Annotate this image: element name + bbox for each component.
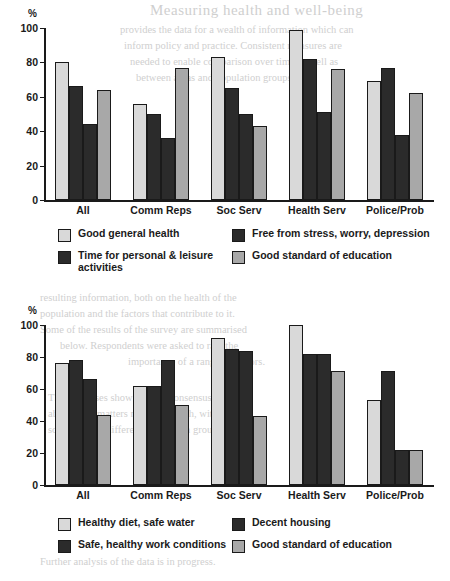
y-tick-mark	[40, 325, 44, 326]
bar	[381, 68, 395, 200]
bar	[161, 360, 175, 485]
bar	[331, 371, 345, 485]
bar	[211, 338, 225, 485]
y-tick-mark	[40, 200, 44, 201]
y-tick-label: 60	[14, 383, 38, 395]
legend-label: Healthy diet, safe water	[78, 517, 195, 529]
legend-label: Good standard of education	[252, 250, 392, 262]
legend-swatch-mid	[232, 251, 245, 264]
x-axis-label: Health Serv	[288, 489, 346, 501]
x-axis-label: Soc Serv	[217, 489, 262, 501]
y-tick-mark	[40, 28, 44, 29]
y-tick-mark	[40, 485, 44, 486]
y-tick-label: 0	[14, 479, 38, 491]
y-tick-mark	[40, 453, 44, 454]
bar	[55, 62, 69, 200]
legend-swatch-light	[58, 518, 71, 531]
legend-swatch-light	[58, 229, 71, 242]
bar	[395, 135, 409, 200]
x-axis-label: Police/Prob	[366, 204, 424, 216]
y-tick-mark	[40, 166, 44, 167]
bar	[303, 354, 317, 485]
bar	[395, 450, 409, 485]
bar	[239, 114, 253, 200]
bar	[147, 114, 161, 200]
y-axis	[44, 325, 46, 486]
bar	[367, 81, 381, 200]
x-axis-label: Comm Reps	[130, 489, 191, 501]
y-tick-label: 60	[14, 91, 38, 103]
legend-label: Time for personal & leisure activities	[78, 250, 213, 273]
bar	[175, 68, 189, 200]
legend-swatch-dark	[58, 540, 71, 553]
x-axis	[44, 200, 434, 202]
chart-top-y-axis-label: %	[28, 8, 37, 19]
chart-top: % 020406080100 Good general healthFree f…	[0, 0, 450, 291]
x-axis-label: All	[76, 489, 89, 501]
y-tick-mark	[40, 389, 44, 390]
legend-item: Good general health	[58, 228, 180, 242]
legend-item: Good standard of education	[232, 250, 392, 264]
y-tick-label: 40	[14, 415, 38, 427]
bar	[239, 351, 253, 485]
bar	[133, 104, 147, 200]
bar	[147, 386, 161, 485]
legend-item: Decent housing	[232, 517, 331, 531]
bar	[289, 325, 303, 485]
bar	[69, 86, 83, 200]
legend-item: Time for personal & leisure activities	[58, 250, 213, 273]
bar	[97, 90, 111, 200]
chart-bottom-y-axis-label: %	[28, 305, 37, 316]
y-axis	[44, 28, 46, 201]
bar	[331, 69, 345, 200]
chart-bottom-legend: Healthy diet, safe waterDecent housingSa…	[0, 517, 450, 567]
x-axis-label: Comm Reps	[130, 204, 191, 216]
y-tick-label: 0	[14, 194, 38, 206]
bar	[289, 30, 303, 200]
bar	[83, 379, 97, 485]
y-tick-mark	[40, 97, 44, 98]
y-tick-label: 100	[14, 22, 38, 34]
bar	[55, 363, 69, 485]
bar	[161, 138, 175, 200]
chart-top-legend: Good general healthFree from stress, wor…	[0, 228, 450, 286]
y-tick-label: 80	[14, 351, 38, 363]
legend-label: Safe, healthy work conditions	[78, 539, 226, 551]
legend-label: Good standard of education	[252, 539, 392, 551]
legend-item: Free from stress, worry, depression	[232, 228, 430, 242]
chart-bottom: % 020406080100 Healthy diet, safe waterD…	[0, 291, 450, 581]
bar	[83, 124, 97, 200]
y-tick-label: 20	[14, 160, 38, 172]
y-tick-label: 100	[14, 319, 38, 331]
chart-bottom-plot-area: 020406080100	[44, 325, 434, 485]
y-tick-mark	[40, 131, 44, 132]
bar	[225, 349, 239, 485]
y-tick-label: 20	[14, 447, 38, 459]
legend-item: Healthy diet, safe water	[58, 517, 195, 531]
legend-swatch-mid	[232, 540, 245, 553]
chart-top-plot-area: 020406080100	[44, 28, 434, 200]
x-axis-label: Health Serv	[288, 204, 346, 216]
bar	[409, 450, 423, 485]
bar	[253, 126, 267, 200]
bar	[225, 88, 239, 200]
legend-swatch-dark	[58, 251, 71, 264]
legend-label: Free from stress, worry, depression	[252, 228, 430, 240]
x-axis	[44, 485, 434, 487]
legend-swatch-dark	[232, 229, 245, 242]
bar	[367, 400, 381, 485]
bar	[303, 59, 317, 200]
bar	[381, 371, 395, 485]
y-tick-mark	[40, 357, 44, 358]
bar	[211, 57, 225, 200]
bar	[69, 360, 83, 485]
bar	[133, 386, 147, 485]
bar	[97, 415, 111, 485]
bar	[317, 354, 331, 485]
bar	[317, 112, 331, 200]
x-axis-label: Soc Serv	[217, 204, 262, 216]
legend-item: Safe, healthy work conditions	[58, 539, 226, 553]
bar	[253, 416, 267, 485]
bar	[175, 405, 189, 485]
bar	[409, 93, 423, 200]
